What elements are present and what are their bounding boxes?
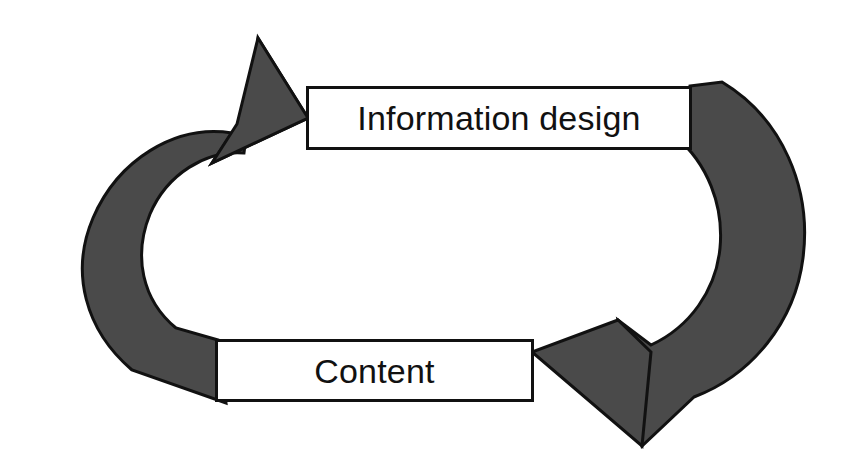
node-information-design[interactable]: Information design	[306, 86, 692, 150]
node-information-design-label: Information design	[357, 101, 640, 135]
arrowhead-bottom-right-shape	[532, 320, 651, 446]
cycle-diagram-graphics	[0, 0, 848, 476]
diagram-canvas: Information design Content	[0, 0, 848, 476]
node-content-label: Content	[314, 354, 434, 388]
node-content[interactable]: Content	[215, 339, 534, 402]
arrowhead-bottom-right	[532, 320, 651, 446]
arrowhead-top-left	[212, 38, 308, 163]
arrowhead-top-left-shape	[212, 38, 308, 163]
